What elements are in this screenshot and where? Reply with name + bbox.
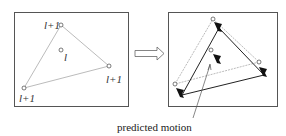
double-right-arrow-icon (135, 47, 164, 60)
vertex-left-icon (22, 86, 26, 90)
right-frame (169, 13, 278, 107)
motion-marker-icon (213, 54, 221, 64)
center-vertex-icon (59, 48, 63, 52)
right-panel (169, 13, 278, 119)
center-label: l (64, 51, 67, 63)
motion-marker-icon (214, 22, 222, 32)
vertex-label-top: l+1 (44, 19, 60, 31)
vertex-label-left: l+1 (19, 92, 35, 104)
vertex-right-icon (107, 64, 111, 68)
old-vertex-icon (209, 48, 213, 52)
old-vertex-icon (211, 17, 215, 21)
predicted-triangle (182, 28, 264, 95)
left-panel: l+1 l+1 l+1 l (15, 13, 129, 107)
predicted-motion-caption: predicted motion (117, 121, 192, 133)
motion-markers (176, 22, 267, 98)
old-vertex-icon (257, 60, 261, 64)
vertex-label-right: l+1 (106, 73, 122, 85)
old-vertex-icon (173, 82, 177, 86)
mesh-motion-diagram: l+1 l+1 l+1 l predicted motion (0, 0, 286, 136)
